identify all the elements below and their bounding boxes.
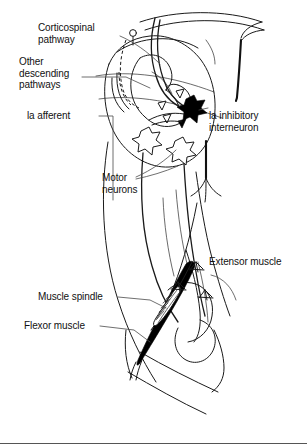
motor-neuron-extensor bbox=[166, 137, 196, 165]
distal-limb-left-edge bbox=[125, 330, 132, 378]
flexor-muscle bbox=[130, 261, 195, 380]
leader-other-descending bbox=[82, 77, 150, 88]
label-ia-afferent: la afferent bbox=[27, 110, 70, 122]
ia-afferent-terminal-tip bbox=[236, 97, 237, 101]
leader-muscle-spindle bbox=[118, 297, 166, 308]
excitatory-terminal-mid bbox=[158, 101, 166, 110]
label-other-descending-pathways: Other descending pathways bbox=[19, 56, 69, 91]
ia-afferent-descending-trunk bbox=[237, 40, 241, 97]
label-flexor-muscle: Flexor muscle bbox=[24, 320, 85, 332]
cord-inner-light-curve bbox=[206, 40, 215, 64]
ia-afferent-ascending-trunk bbox=[191, 141, 221, 202]
label-muscle-spindle: Muscle spindle bbox=[38, 291, 103, 303]
flexor-tendon-1 bbox=[130, 362, 136, 380]
tract-sweep-upper bbox=[96, 74, 214, 92]
other-descending-pathway-fibers bbox=[112, 40, 139, 112]
figure-root: .ln { fill:none; stroke:#1a1a1a; stroke-… bbox=[0, 0, 307, 448]
label-motor-neurons: Motor neurons bbox=[102, 172, 137, 195]
inhibitory-synapse-bouton bbox=[178, 119, 186, 128]
motor-neuron-flexor bbox=[132, 127, 162, 155]
distal-limb-lower bbox=[128, 372, 206, 414]
label-ia-inhibitory-interneuron: la inhibitory interneuron bbox=[209, 110, 259, 133]
excitatory-terminal-upper bbox=[176, 89, 184, 98]
tibia-contour bbox=[212, 330, 224, 392]
label-extensor-muscle: Extensor muscle bbox=[209, 256, 281, 268]
label-corticospinal-pathway: Corticospinal pathway bbox=[38, 22, 95, 45]
thigh-inner-line-2 bbox=[163, 198, 174, 276]
